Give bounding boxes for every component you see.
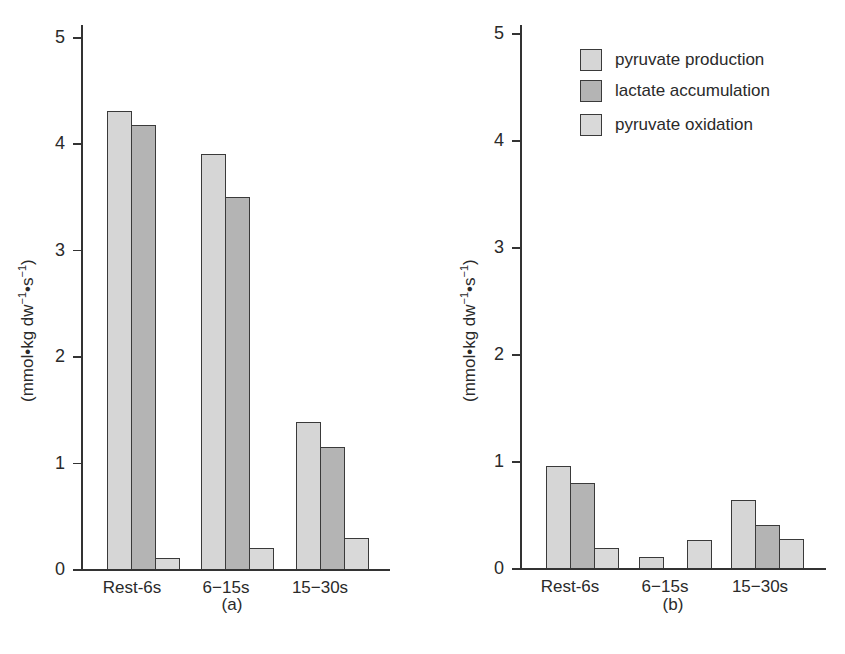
bar-pyruvate-production xyxy=(296,422,321,569)
bar-pyruvate-oxidation xyxy=(779,539,804,568)
y-tick-label: 5 xyxy=(45,27,65,47)
ylabel-exp: −1 xyxy=(16,292,28,305)
legend-label: lactate accumulation xyxy=(615,80,770,102)
x-category-label: 15−30s xyxy=(265,578,375,598)
bar-pyruvate-oxidation xyxy=(344,538,369,569)
y-tick xyxy=(512,33,520,35)
ylabel-text: •s xyxy=(18,277,37,291)
y-tick xyxy=(73,37,81,39)
y-axis-label: (mmol•kg dw−1•s−1) xyxy=(12,259,38,402)
y-tick xyxy=(73,463,81,465)
bar-pyruvate-production xyxy=(107,111,132,569)
ylabel-exp: −1 xyxy=(16,265,28,278)
y-tick xyxy=(512,354,520,356)
bar-pyruvate-oxidation xyxy=(594,548,619,568)
y-tick-label: 4 xyxy=(45,133,65,153)
chart-panel-b: (mmol•kg dw−1•s−1) 012345 Rest-6s6−15s15… xyxy=(420,0,845,654)
y-tick xyxy=(73,250,81,252)
ylabel-text: ) xyxy=(460,259,479,265)
y-axis xyxy=(81,25,83,570)
bar-pyruvate-oxidation xyxy=(155,558,180,569)
y-tick xyxy=(73,569,81,571)
y-axis xyxy=(520,25,522,569)
x-category-label: 15−30s xyxy=(705,577,815,597)
ylabel-text: ) xyxy=(18,259,37,265)
bar-lactate-accumulation xyxy=(320,447,345,569)
x-category-label: Rest-6s xyxy=(515,577,625,597)
bar-lactate-accumulation xyxy=(755,525,780,568)
legend-swatch xyxy=(580,49,602,71)
x-axis xyxy=(513,568,826,570)
legend-swatch xyxy=(580,80,602,102)
bar-lactate-accumulation xyxy=(570,483,595,568)
y-tick-label: 0 xyxy=(45,559,65,579)
chart-panel-a: (mmol•kg dw−1•s−1) 012345 Rest-6s6−15s15… xyxy=(0,0,420,654)
y-tick xyxy=(73,143,81,145)
ylabel-text: •s xyxy=(460,277,479,291)
y-tick-label: 4 xyxy=(484,130,504,150)
legend-label: pyruvate production xyxy=(615,49,764,71)
x-category-label: 6−15s xyxy=(610,577,720,597)
y-tick-label: 2 xyxy=(484,344,504,364)
bar-lactate-accumulation xyxy=(225,197,250,569)
bar-pyruvate-oxidation xyxy=(249,548,274,569)
y-tick-label: 3 xyxy=(45,240,65,260)
y-tick xyxy=(512,247,520,249)
bar-lactate-accumulation xyxy=(131,125,156,569)
panel-label: (a) xyxy=(212,595,252,615)
y-tick xyxy=(73,356,81,358)
y-tick-label: 2 xyxy=(45,346,65,366)
y-tick-label: 0 xyxy=(484,558,504,578)
bar-pyruvate-production xyxy=(201,154,226,569)
ylabel-text: (mmol•kg dw xyxy=(18,304,37,402)
y-tick xyxy=(512,140,520,142)
bar-pyruvate-oxidation xyxy=(687,540,712,568)
y-tick xyxy=(512,461,520,463)
bar-pyruvate-production xyxy=(731,500,756,568)
bar-pyruvate-production xyxy=(546,466,571,568)
y-tick-label: 1 xyxy=(484,451,504,471)
y-tick-label: 3 xyxy=(484,237,504,257)
x-axis xyxy=(74,569,390,571)
bar-pyruvate-production xyxy=(639,557,664,568)
ylabel-exp: −1 xyxy=(458,265,470,278)
panel-label: (b) xyxy=(653,595,693,615)
y-tick-label: 1 xyxy=(45,453,65,473)
ylabel-text: (mmol•kg dw xyxy=(460,304,479,402)
ylabel-exp: −1 xyxy=(458,292,470,305)
legend-swatch xyxy=(580,114,602,136)
y-tick-label: 5 xyxy=(484,23,504,43)
y-axis-label: (mmol•kg dw−1•s−1) xyxy=(454,259,480,402)
legend-label: pyruvate oxidation xyxy=(615,114,753,136)
y-tick xyxy=(512,568,520,570)
